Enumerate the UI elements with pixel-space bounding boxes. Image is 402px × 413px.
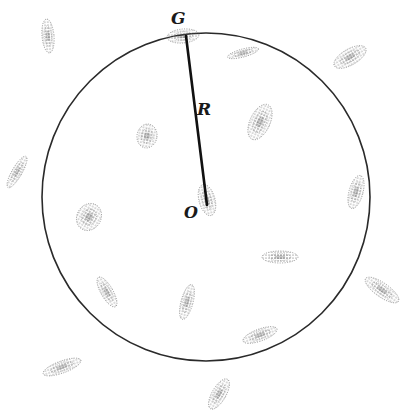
galaxy-g12 <box>93 274 120 309</box>
galaxy-g13 <box>177 283 198 321</box>
galaxy-g16 <box>41 355 83 380</box>
label-radius-r: R <box>197 99 211 119</box>
diagram-canvas <box>0 0 402 413</box>
galaxy-g14 <box>241 323 279 347</box>
galaxy-g4 <box>330 41 369 73</box>
galaxy-g17 <box>204 376 233 412</box>
galaxy-g7 <box>4 154 31 190</box>
galaxy-G <box>166 28 199 45</box>
label-galaxy-g: G <box>171 8 186 28</box>
galaxy-g6 <box>243 101 277 144</box>
galaxy-g5 <box>135 122 159 149</box>
galaxy-g15 <box>362 273 402 307</box>
galaxy-g11 <box>262 251 298 263</box>
galaxy-group <box>4 19 402 413</box>
radius-line <box>186 36 207 205</box>
galaxy-g10 <box>345 174 367 210</box>
galaxy-g1 <box>41 19 56 54</box>
galaxy-g8 <box>72 199 107 235</box>
label-origin-o: O <box>184 203 198 222</box>
galaxy-g3 <box>227 45 260 61</box>
